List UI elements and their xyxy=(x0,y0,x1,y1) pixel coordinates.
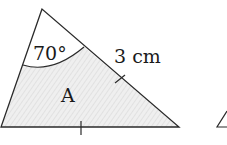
triangle-diagram: 70° 3 cm A xyxy=(0,0,227,145)
side-length-label: 3 cm xyxy=(114,45,161,67)
partial-shape-edge xyxy=(217,111,227,127)
region-label: A xyxy=(60,84,75,106)
angle-label: 70° xyxy=(33,42,67,64)
